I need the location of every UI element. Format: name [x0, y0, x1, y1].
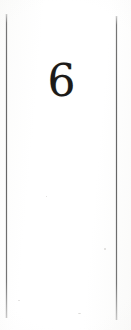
page-number: 6 [7, 58, 116, 104]
right-margin-rule [116, 16, 117, 320]
scanned-page-fragment: 6 [0, 0, 131, 330]
page-column-body: 6 [7, 14, 116, 320]
